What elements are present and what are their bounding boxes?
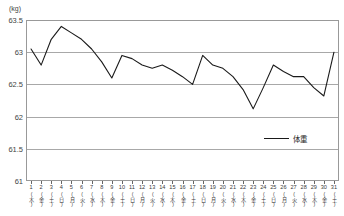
x-axis-tick-label: 2(金) <box>39 185 44 206</box>
x-axis-day-number: 20 <box>220 185 226 191</box>
x-axis-day-number: 27 <box>290 185 296 191</box>
x-axis-tick-label: 19(月) <box>210 185 216 206</box>
x-axis-day-number: 24 <box>260 185 266 191</box>
x-axis-day-number: 12 <box>139 185 145 191</box>
x-axis-tick-label: 27(火) <box>290 185 296 206</box>
chart-legend: 体重 <box>264 133 307 144</box>
x-axis-weekday: (水) <box>230 191 235 207</box>
x-axis-tick-label: 6(火) <box>79 185 84 206</box>
x-axis-tick-label: 5(月) <box>69 185 74 206</box>
x-axis-weekday: (金) <box>39 191 44 207</box>
x-axis-tick-label: 9(金) <box>109 185 114 206</box>
x-axis-day-number: 13 <box>149 185 155 191</box>
x-axis-weekday: (火) <box>79 191 84 207</box>
x-axis-day-number: 10 <box>119 185 125 191</box>
x-axis-tick-label: 7(水) <box>89 185 94 206</box>
x-axis-tick-label: 25(日) <box>270 185 276 206</box>
x-axis-tick-label: 28(水) <box>301 185 307 206</box>
y-axis-tick-label: 61.5 <box>8 144 23 153</box>
x-axis-weekday: (土) <box>190 191 195 207</box>
x-axis-day-number: 25 <box>270 185 276 191</box>
x-axis-weekday: (土) <box>49 191 54 207</box>
x-axis-tick-label: 3(土) <box>49 185 54 206</box>
x-axis-weekday: (日) <box>200 191 205 207</box>
x-axis-weekday: (火) <box>220 191 225 207</box>
x-axis-weekday: (水) <box>301 191 306 207</box>
x-axis-tick-label: 13(火) <box>149 185 155 206</box>
x-axis-day-number: 19 <box>210 185 216 191</box>
x-axis-weekday: (木) <box>99 191 104 207</box>
x-axis-weekday: (水) <box>89 191 94 207</box>
y-axis-labels: 63.56362.56261.561 <box>0 0 23 216</box>
x-axis-weekday: (日) <box>129 191 134 207</box>
x-axis-weekday: (月) <box>210 191 215 207</box>
x-axis-tick-label: 12(月) <box>139 185 145 206</box>
weight-line-chart: (kg) 63.56362.56261.561 1(木)2(金)3(土)4(日)… <box>0 0 344 216</box>
x-axis-tick-label: 30(金) <box>321 185 327 206</box>
x-axis-weekday: (土) <box>331 191 336 207</box>
x-axis-day-number: 17 <box>189 185 195 191</box>
x-axis-day-number: 15 <box>169 185 175 191</box>
x-axis-weekday: (火) <box>291 191 296 207</box>
x-axis-tick-label: 16(金) <box>179 185 185 206</box>
x-axis-weekday: (土) <box>119 191 124 207</box>
x-axis-day-number: 23 <box>250 185 256 191</box>
x-axis-tick-label: 24(土) <box>260 185 266 206</box>
x-axis-weekday: (月) <box>140 191 145 207</box>
x-axis-weekday: (土) <box>261 191 266 207</box>
x-axis-weekday: (日) <box>59 191 64 207</box>
legend-line-swatch <box>264 138 289 139</box>
plot-area <box>26 20 339 181</box>
y-axis-tick-label: 62 <box>15 112 23 121</box>
x-axis-day-number: 29 <box>311 185 317 191</box>
x-axis-tick-label: 14(水) <box>159 185 165 206</box>
x-axis-weekday: (木) <box>28 191 33 207</box>
y-axis-tick-label: 61 <box>15 177 23 186</box>
x-axis-day-number: 28 <box>301 185 307 191</box>
x-axis: 1(木)2(金)3(土)4(日)5(月)6(火)7(水)8(木)9(金)10(土… <box>26 181 339 216</box>
x-axis-day-number: 26 <box>280 185 286 191</box>
y-axis-tick-label: 63 <box>15 48 23 57</box>
x-axis-weekday: (水) <box>160 191 165 207</box>
x-axis-weekday: (火) <box>150 191 155 207</box>
x-axis-weekday: (木) <box>170 191 175 207</box>
x-axis-day-number: 18 <box>200 185 206 191</box>
x-axis-weekday: (金) <box>321 191 326 207</box>
x-axis-tick-label: 11(日) <box>129 185 135 206</box>
x-axis-day-number: 11 <box>129 185 135 191</box>
x-axis-weekday: (月) <box>69 191 74 207</box>
x-axis-tick-label: 1(木) <box>28 185 33 206</box>
x-axis-weekday: (金) <box>109 191 114 207</box>
legend-label: 体重 <box>293 133 307 144</box>
x-axis-tick-label: 29(木) <box>311 185 317 206</box>
x-axis-tick-label: 15(木) <box>169 185 175 206</box>
x-axis-weekday: (金) <box>251 191 256 207</box>
x-axis-weekday: (月) <box>281 191 286 207</box>
x-axis-tick-label: 18(日) <box>200 185 206 206</box>
x-axis-day-number: 31 <box>331 185 337 191</box>
x-axis-tick-label: 8(木) <box>99 185 104 206</box>
x-axis-tick-label: 26(月) <box>280 185 286 206</box>
series-line <box>31 26 334 108</box>
x-axis-weekday: (木) <box>240 191 245 207</box>
x-axis-tick-label: 17(土) <box>189 185 195 206</box>
x-axis-tick-label: 23(金) <box>250 185 256 206</box>
x-axis-weekday: (日) <box>271 191 276 207</box>
x-axis-tick-label: 22(木) <box>240 185 246 206</box>
x-axis-day-number: 22 <box>240 185 246 191</box>
x-axis-tick-label: 10(土) <box>119 185 125 206</box>
x-axis-day-number: 14 <box>159 185 165 191</box>
x-axis-weekday: (木) <box>311 191 316 207</box>
series-lines <box>26 20 339 181</box>
x-axis-tick-label: 21(水) <box>230 185 236 206</box>
x-axis-day-number: 16 <box>179 185 185 191</box>
x-axis-tick-label: 20(火) <box>220 185 226 206</box>
x-axis-day-number: 30 <box>321 185 327 191</box>
x-axis-weekday: (金) <box>180 191 185 207</box>
x-axis-tick-label: 31(土) <box>331 185 337 206</box>
y-axis-tick-label: 63.5 <box>8 16 23 25</box>
y-axis-tick-label: 62.5 <box>8 80 23 89</box>
x-axis-day-number: 21 <box>230 185 236 191</box>
x-axis-tick-label: 4(日) <box>59 185 64 206</box>
